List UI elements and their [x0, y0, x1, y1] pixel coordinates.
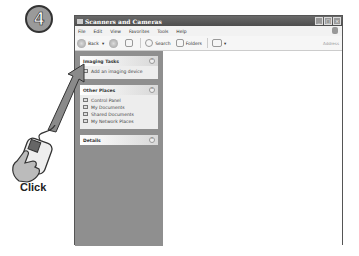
address-label: Address: [323, 41, 339, 46]
control-panel-link[interactable]: Control Panel: [83, 97, 155, 103]
add-imaging-device-link[interactable]: Add an imaging device: [83, 68, 155, 74]
imaging-tasks-header[interactable]: Imaging Tasks ˄: [80, 56, 158, 66]
windows-logo-icon: [332, 27, 338, 34]
back-dropdown-icon[interactable]: ▾: [102, 41, 104, 46]
back-arrow-icon: [77, 39, 86, 48]
click-instruction-label: Click: [20, 181, 46, 193]
my-network-places-label: My Network Places: [91, 119, 134, 124]
collapse-up-icon[interactable]: ˄: [149, 58, 155, 64]
window-title: Scanners and Cameras: [85, 18, 315, 25]
search-icon: [145, 39, 153, 47]
collapse-up-icon[interactable]: ˄: [149, 87, 155, 93]
imaging-tasks-panel: Imaging Tasks ˄ Add an imaging device: [80, 56, 158, 79]
shared-documents-label: Shared Documents: [91, 112, 134, 117]
minimize-button[interactable]: _: [315, 17, 323, 25]
back-button[interactable]: Back ▾: [77, 39, 104, 48]
add-imaging-device-label: Add an imaging device: [91, 69, 143, 74]
mouse-click-icon: [5, 125, 65, 185]
search-label: Search: [155, 41, 170, 46]
search-button[interactable]: Search: [145, 39, 170, 47]
toolbar-divider: [207, 38, 208, 48]
details-panel: Details ˅: [80, 135, 158, 145]
menu-bar: File Edit View Favorites Tools Help: [75, 26, 342, 36]
menu-file[interactable]: File: [78, 29, 86, 34]
toolbar-divider: [140, 38, 141, 48]
forward-button[interactable]: [109, 39, 120, 48]
views-dropdown-icon: ▾: [224, 41, 226, 46]
pointer-arrow-icon: [40, 60, 90, 135]
up-folder-icon: [125, 39, 133, 47]
menu-view[interactable]: View: [110, 29, 121, 34]
menu-edit[interactable]: Edit: [94, 29, 103, 34]
views-button[interactable]: ▾: [212, 39, 226, 47]
back-label: Back: [88, 41, 99, 46]
menu-help[interactable]: Help: [176, 29, 186, 34]
other-places-panel: Other Places ˄ Control Panel My Document…: [80, 85, 158, 129]
forward-arrow-icon: [109, 39, 118, 48]
views-icon: [212, 39, 222, 47]
control-panel-label: Control Panel: [91, 98, 121, 103]
menu-favorites[interactable]: Favorites: [129, 29, 149, 34]
step-number-badge: 4: [25, 5, 53, 33]
folders-icon: [176, 39, 184, 47]
window-icon: [77, 19, 83, 24]
shared-documents-link[interactable]: Shared Documents: [83, 111, 155, 117]
other-places-header[interactable]: Other Places ˄: [80, 85, 158, 95]
folders-label: Folders: [186, 41, 202, 46]
up-folder-button[interactable]: [125, 39, 135, 47]
menu-tools[interactable]: Tools: [157, 29, 168, 34]
scanners-cameras-window: Scanners and Cameras _ □ × File Edit Vie…: [74, 15, 343, 245]
maximize-button[interactable]: □: [324, 17, 332, 25]
details-header[interactable]: Details ˅: [80, 135, 158, 145]
close-button[interactable]: ×: [333, 17, 341, 25]
my-documents-link[interactable]: My Documents: [83, 104, 155, 110]
title-bar[interactable]: Scanners and Cameras _ □ ×: [75, 16, 342, 26]
folders-button[interactable]: Folders: [176, 39, 202, 47]
toolbar: Back ▾ Search Folders ▾ Address: [75, 36, 342, 51]
details-title: Details: [83, 138, 101, 143]
main-content-area[interactable]: [163, 51, 342, 246]
my-documents-label: My Documents: [91, 105, 125, 110]
my-network-places-link[interactable]: My Network Places: [83, 118, 155, 124]
expand-down-icon[interactable]: ˅: [149, 137, 155, 143]
